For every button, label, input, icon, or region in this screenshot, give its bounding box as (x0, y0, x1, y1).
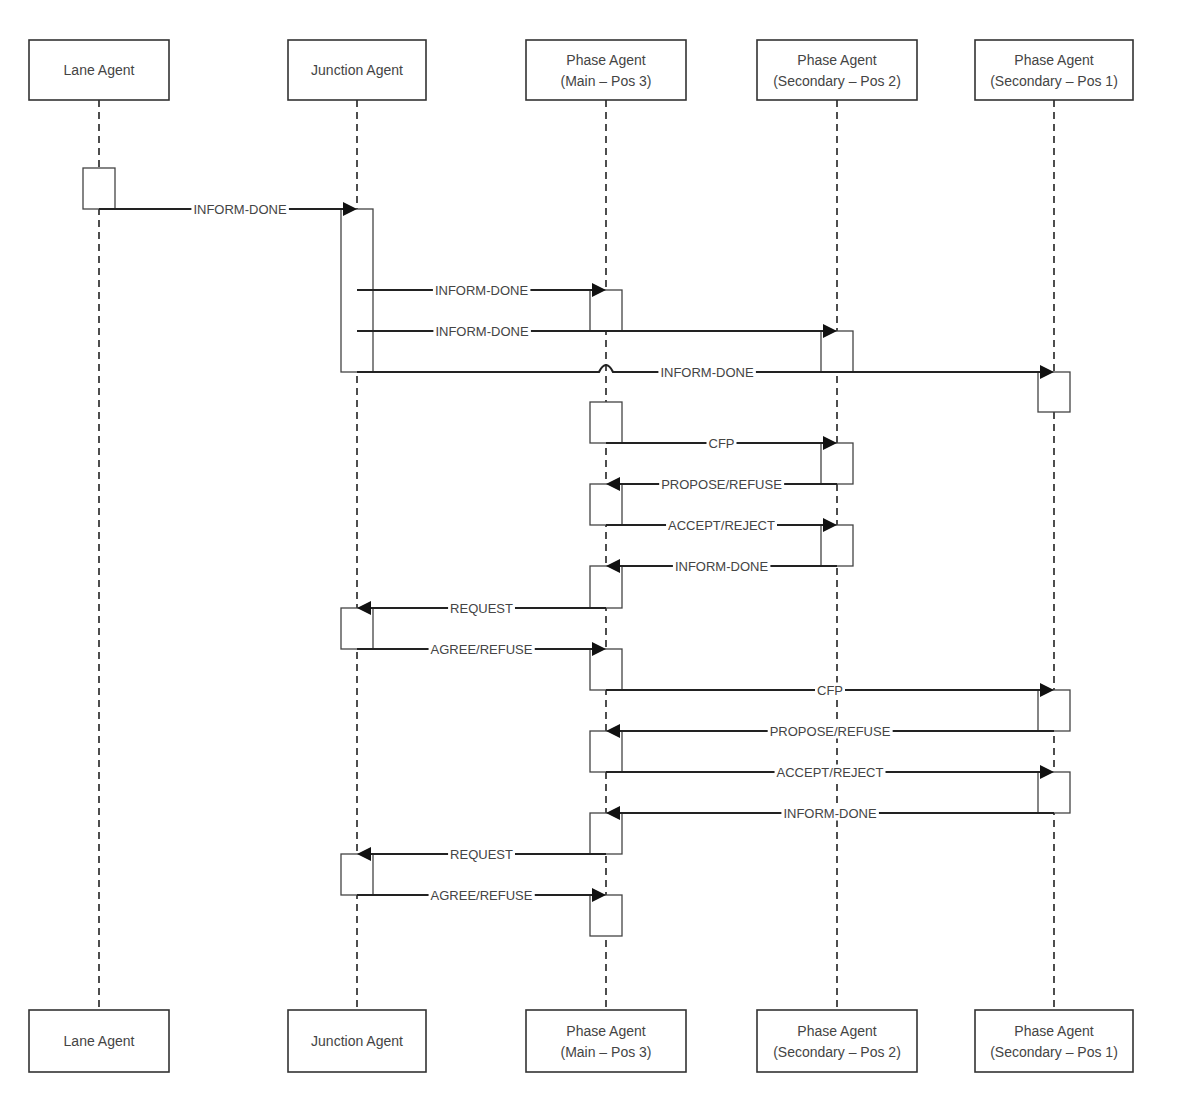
agent-box-frame (757, 1010, 917, 1072)
activation-bar-junction (341, 854, 373, 895)
activation-bar-sec2 (821, 525, 853, 566)
agent-name-label: Phase Agent (1014, 1023, 1094, 1039)
agent-box-sec1-top: Phase Agent(Secondary – Pos 1) (975, 40, 1133, 100)
agent-box-junction-bottom: Junction Agent (288, 1010, 426, 1072)
activation-bar-main3 (590, 484, 622, 525)
message-label: REQUEST (450, 847, 513, 862)
agent-name-label: Junction Agent (311, 1033, 403, 1049)
agent-headers-top: Lane AgentJunction AgentPhase Agent(Main… (29, 40, 1133, 100)
agent-box-frame (526, 1010, 686, 1072)
message-label: CFP (709, 436, 735, 451)
activation-bar-lane (83, 168, 115, 209)
message-arrow: INFORM-DONE (606, 806, 1054, 821)
message-label: ACCEPT/REJECT (777, 765, 884, 780)
agent-name-label: (Secondary – Pos 1) (990, 73, 1118, 89)
agent-name-label: Phase Agent (797, 52, 877, 68)
message-label: INFORM-DONE (435, 283, 528, 298)
activation-bar-junction (341, 608, 373, 649)
message-label: INFORM-DONE (675, 559, 768, 574)
message-arrow: CFP (606, 436, 837, 451)
agent-box-sec2-top: Phase Agent(Secondary – Pos 2) (757, 40, 917, 100)
activation-bar-sec1 (1038, 690, 1070, 731)
message-label: INFORM-DONE (783, 806, 876, 821)
message-arrow: CFP (606, 683, 1054, 698)
message-label: PROPOSE/REFUSE (770, 724, 891, 739)
agent-box-lane-top: Lane Agent (29, 40, 169, 100)
message-label: CFP (817, 683, 843, 698)
agent-name-label: (Main – Pos 3) (560, 1044, 651, 1060)
agent-box-sec1-bottom: Phase Agent(Secondary – Pos 1) (975, 1010, 1133, 1072)
message-arrow: INFORM-DONE (357, 365, 1054, 380)
message-label: AGREE/REFUSE (431, 888, 533, 903)
activation-bar-main3 (590, 566, 622, 608)
agent-box-main3-bottom: Phase Agent(Main – Pos 3) (526, 1010, 686, 1072)
activation-bar-main3 (590, 290, 622, 331)
agent-name-label: (Secondary – Pos 2) (773, 1044, 901, 1060)
message-arrow: PROPOSE/REFUSE (606, 477, 837, 492)
message-label: INFORM-DONE (193, 202, 286, 217)
message-arrow: INFORM-DONE (99, 202, 357, 217)
activation-bar-main3 (590, 649, 622, 690)
message-arrow: PROPOSE/REFUSE (606, 724, 1054, 739)
sequence-diagram: INFORM-DONEINFORM-DONEINFORM-DONEINFORM-… (0, 0, 1189, 1117)
message-label: PROPOSE/REFUSE (661, 477, 782, 492)
message-arrow: ACCEPT/REJECT (606, 518, 837, 533)
message-arrow: REQUEST (357, 847, 606, 862)
agent-name-label: (Main – Pos 3) (560, 73, 651, 89)
activation-bar-sec2 (821, 331, 853, 372)
agent-name-label: Phase Agent (1014, 52, 1094, 68)
messages: INFORM-DONEINFORM-DONEINFORM-DONEINFORM-… (99, 202, 1054, 903)
message-arrow: INFORM-DONE (606, 559, 837, 574)
activation-bar-main3 (590, 731, 622, 772)
message-arrow: REQUEST (357, 601, 606, 616)
activation-bar-main3 (590, 402, 622, 443)
activation-bar-main3 (590, 895, 622, 936)
message-label: REQUEST (450, 601, 513, 616)
activation-bar-sec1 (1038, 372, 1070, 412)
agent-name-label: Lane Agent (64, 1033, 135, 1049)
agent-box-frame (975, 1010, 1133, 1072)
message-label: AGREE/REFUSE (431, 642, 533, 657)
activation-bar-sec2 (821, 443, 853, 484)
agent-name-label: Phase Agent (797, 1023, 877, 1039)
agent-box-frame (757, 40, 917, 100)
agent-box-sec2-bottom: Phase Agent(Secondary – Pos 2) (757, 1010, 917, 1072)
message-arrow: ACCEPT/REJECT (606, 765, 1054, 780)
activation-bars (83, 168, 1070, 936)
agent-name-label: Phase Agent (566, 52, 646, 68)
message-arrow: AGREE/REFUSE (357, 888, 606, 903)
agent-box-lane-bottom: Lane Agent (29, 1010, 169, 1072)
message-label: ACCEPT/REJECT (668, 518, 775, 533)
agent-name-label: (Secondary – Pos 1) (990, 1044, 1118, 1060)
message-arrow: INFORM-DONE (357, 283, 606, 298)
message-label: INFORM-DONE (660, 365, 753, 380)
agent-headers-bottom: Lane AgentJunction AgentPhase Agent(Main… (29, 1010, 1133, 1072)
agent-box-main3-top: Phase Agent(Main – Pos 3) (526, 40, 686, 100)
agent-box-frame (975, 40, 1133, 100)
agent-name-label: (Secondary – Pos 2) (773, 73, 901, 89)
lifelines (99, 100, 1054, 1010)
activation-bar-sec1 (1038, 772, 1070, 813)
activation-bar-main3 (590, 813, 622, 854)
agent-box-frame (526, 40, 686, 100)
message-label: INFORM-DONE (435, 324, 528, 339)
agent-name-label: Junction Agent (311, 62, 403, 78)
message-arrow: AGREE/REFUSE (357, 642, 606, 657)
agent-name-label: Lane Agent (64, 62, 135, 78)
agent-name-label: Phase Agent (566, 1023, 646, 1039)
agent-box-junction-top: Junction Agent (288, 40, 426, 100)
